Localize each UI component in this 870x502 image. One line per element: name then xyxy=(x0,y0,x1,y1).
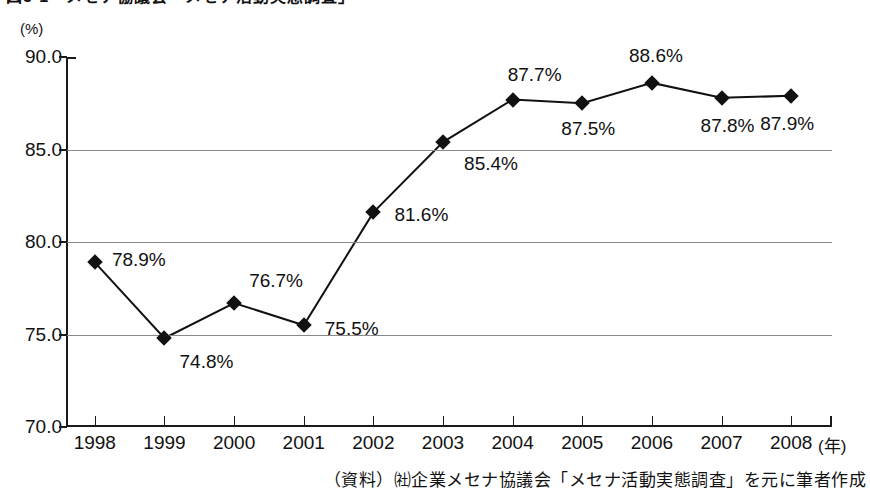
y-axis-tick-labels: 90.085.080.075.070.0 xyxy=(0,57,62,427)
y-tick-mark xyxy=(59,56,67,58)
data-point-label: 81.6% xyxy=(394,204,448,226)
data-point-label: 87.5% xyxy=(561,118,615,140)
y-tick-mark xyxy=(59,241,67,243)
y-tick-label: 70.0 xyxy=(0,416,62,438)
data-point-label: 88.6% xyxy=(629,45,683,67)
x-tick-mark xyxy=(513,416,514,427)
gridline xyxy=(66,150,832,151)
data-point-label: 87.8% xyxy=(701,115,755,137)
figure-title-clipped: 図5-1 メセナ協議会「メセナ活動実態調査」 xyxy=(0,0,870,9)
x-tick-label: 2003 xyxy=(422,432,464,454)
figure-title-text: 図5-1 メセナ協議会「メセナ活動実態調査」 xyxy=(0,0,870,7)
x-tick-label: 2005 xyxy=(561,432,603,454)
data-point-label: 76.7% xyxy=(249,270,303,292)
y-tick-label: 90.0 xyxy=(0,46,62,68)
x-tick-label: 1998 xyxy=(74,432,116,454)
source-note: （資料）㈳企業メセナ協議会「メセナ活動実態調査」を元に筆者作成 xyxy=(0,466,866,491)
x-tick-mark xyxy=(373,416,374,427)
y-tick-mark xyxy=(59,149,67,151)
y-tick-label: 85.0 xyxy=(0,139,62,161)
y-tick-mark xyxy=(59,426,67,428)
x-tick-label: 2004 xyxy=(491,432,533,454)
y-tick-label: 80.0 xyxy=(0,231,62,253)
x-tick-mark xyxy=(791,416,792,427)
data-point-label: 75.5% xyxy=(325,318,379,340)
x-tick-label: 2007 xyxy=(700,432,742,454)
data-point-label: 85.4% xyxy=(464,153,518,175)
x-tick-mark xyxy=(164,416,165,427)
data-point-label: 74.8% xyxy=(180,351,234,373)
x-tick-label: 1999 xyxy=(143,432,185,454)
x-tick-mark xyxy=(304,416,305,427)
y-tick-mark xyxy=(59,334,67,336)
x-tick-label: 2008 xyxy=(770,432,812,454)
x-tick-mark xyxy=(722,416,723,427)
chart-figure: 図5-1 メセナ協議会「メセナ活動実態調査」 (%) 90.085.080.07… xyxy=(0,0,870,502)
plot-area: 78.9%74.8%76.7%75.5%81.6%85.4%87.7%87.5%… xyxy=(66,57,832,427)
x-tick-mark xyxy=(234,416,235,427)
data-point-label: 87.9% xyxy=(760,113,814,135)
gridline xyxy=(66,335,832,336)
x-tick-mark xyxy=(652,416,653,427)
y-tick-label: 75.0 xyxy=(0,324,62,346)
y-axis-unit-label: (%) xyxy=(20,20,43,37)
x-tick-mark xyxy=(95,416,96,427)
x-tick-label: 2001 xyxy=(283,432,325,454)
data-point-label: 78.9% xyxy=(112,249,166,271)
gridline xyxy=(66,242,832,243)
x-tick-label: 2006 xyxy=(631,432,673,454)
x-axis-unit-label: (年) xyxy=(818,432,846,457)
x-tick-label: 2000 xyxy=(213,432,255,454)
x-tick-mark xyxy=(582,416,583,427)
x-tick-label: 2002 xyxy=(352,432,394,454)
data-point-label: 87.7% xyxy=(508,64,562,86)
x-tick-mark xyxy=(443,416,444,427)
